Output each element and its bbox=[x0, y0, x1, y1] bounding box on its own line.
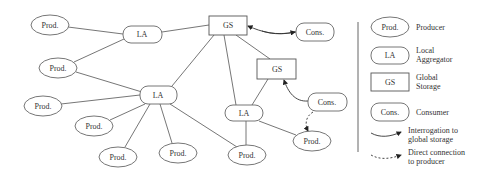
local-aggregator-nodes: LA LA LA bbox=[123, 26, 263, 121]
svg-text:Aggregator: Aggregator bbox=[416, 55, 453, 64]
legend-item-consumer: Cons. Consumer bbox=[371, 103, 449, 121]
producer-node: Prod. bbox=[228, 145, 266, 165]
svg-text:LA: LA bbox=[153, 91, 164, 100]
producer-node: Prod. bbox=[75, 116, 113, 136]
edge-prod1-la1 bbox=[68, 27, 123, 34]
edge-gs1-la3 bbox=[224, 35, 236, 105]
svg-text:Prod.: Prod. bbox=[169, 149, 186, 158]
edge-prod5-la2 bbox=[125, 104, 150, 147]
svg-text:to producer: to producer bbox=[408, 157, 445, 166]
legend: Prod. Producer LA Local Aggregator GS Gl… bbox=[358, 17, 465, 166]
consumer-nodes: Cons. Cons. bbox=[296, 23, 347, 111]
local-aggregator-node: LA bbox=[225, 105, 263, 121]
svg-text:Consumer: Consumer bbox=[416, 108, 449, 117]
edge-prod2-la2 bbox=[76, 72, 142, 92]
legend-item-global-storage: GS Global Storage bbox=[371, 73, 441, 91]
svg-text:global storage: global storage bbox=[408, 135, 454, 144]
svg-text:Local: Local bbox=[416, 46, 435, 55]
svg-text:GS: GS bbox=[272, 65, 282, 74]
edge-gs1-gs2 bbox=[236, 35, 270, 59]
producer-node: Prod. bbox=[99, 147, 137, 167]
svg-text:Prod.: Prod. bbox=[41, 21, 58, 30]
svg-text:Prod.: Prod. bbox=[109, 153, 126, 162]
edge-prod6-la2 bbox=[160, 104, 172, 143]
consumer-node: Cons. bbox=[296, 23, 334, 41]
producer-node: Prod. bbox=[24, 96, 62, 116]
svg-text:Interrogation to: Interrogation to bbox=[408, 126, 458, 135]
edge-la2-gs1 bbox=[172, 35, 214, 86]
producer-node: Prod. bbox=[31, 15, 69, 35]
edge-la3-prod8 bbox=[259, 121, 296, 135]
arrow-cons2-gs2 bbox=[284, 80, 308, 101]
svg-text:GS: GS bbox=[223, 21, 233, 30]
svg-text:Prod.: Prod. bbox=[34, 102, 51, 111]
svg-text:Prod.: Prod. bbox=[85, 122, 102, 131]
svg-text:Cons.: Cons. bbox=[318, 98, 336, 107]
dashed-arrow-icon bbox=[371, 155, 401, 158]
global-storage-node: GS bbox=[209, 16, 247, 35]
legend-item-interrogation: Interrogation to global storage bbox=[371, 126, 458, 144]
svg-text:LA: LA bbox=[239, 109, 250, 118]
edge-gs2-la3 bbox=[252, 79, 268, 105]
svg-text:LA: LA bbox=[385, 51, 396, 60]
solid-arrow-icon bbox=[371, 132, 401, 136]
producer-node: Prod. bbox=[39, 58, 77, 78]
edge-la1-gs1 bbox=[162, 25, 209, 32]
svg-text:Prod.: Prod. bbox=[49, 64, 66, 73]
producer-nodes: Prod. Prod. Prod. Prod. Prod. Prod. Prod… bbox=[24, 15, 331, 167]
svg-text:Prod.: Prod. bbox=[238, 151, 255, 160]
legend-item-local-aggregator: LA Local Aggregator bbox=[371, 46, 453, 64]
network-diagram: Prod. Prod. Prod. Prod. Prod. Prod. Prod… bbox=[0, 0, 482, 178]
svg-text:LA: LA bbox=[137, 30, 148, 39]
global-storage-nodes: GS GS bbox=[209, 16, 296, 79]
edge-prod4-la2 bbox=[110, 104, 145, 120]
arrow-cons2-prod8 bbox=[306, 112, 313, 131]
arrow-cons1-gs1 bbox=[248, 26, 296, 34]
svg-text:Storage: Storage bbox=[416, 82, 441, 91]
svg-text:Producer: Producer bbox=[416, 23, 445, 32]
svg-text:Global: Global bbox=[416, 73, 439, 82]
svg-text:Prod.: Prod. bbox=[381, 23, 398, 32]
edge-prod3-la2 bbox=[61, 95, 140, 104]
svg-text:Prod.: Prod. bbox=[303, 137, 320, 146]
svg-text:Cons.: Cons. bbox=[306, 28, 324, 37]
local-aggregator-node: LA bbox=[123, 26, 162, 43]
svg-text:Cons.: Cons. bbox=[381, 108, 399, 117]
global-storage-node: GS bbox=[257, 59, 296, 79]
svg-text:Direct connection: Direct connection bbox=[408, 148, 465, 157]
svg-text:GS: GS bbox=[385, 78, 395, 87]
legend-item-direct-connection: Direct connection to producer bbox=[371, 148, 465, 166]
edge-prod2-la1 bbox=[74, 39, 124, 62]
producer-node: Prod. bbox=[293, 131, 331, 151]
consumer-node: Cons. bbox=[308, 93, 347, 111]
local-aggregator-node: LA bbox=[140, 86, 177, 104]
legend-item-producer: Prod. Producer bbox=[371, 17, 445, 37]
producer-node: Prod. bbox=[159, 143, 197, 163]
